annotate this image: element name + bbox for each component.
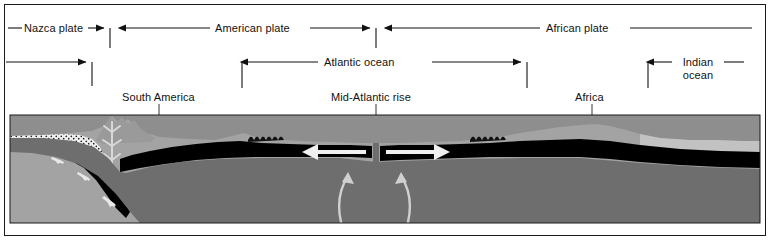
cross-section-diagram bbox=[0, 0, 774, 242]
label-indian-ocean-line2: ocean bbox=[683, 69, 713, 81]
label-africa: Africa bbox=[575, 91, 604, 103]
american-arrow-left bbox=[118, 25, 126, 32]
cross-section-panel bbox=[10, 115, 760, 223]
atlantic-arrow-left bbox=[240, 59, 248, 66]
african-arrow-left bbox=[384, 25, 392, 32]
label-african-plate: African plate bbox=[546, 22, 608, 34]
ridge-axis-gap bbox=[373, 143, 379, 163]
label-atlantic-ocean: Atlantic ocean bbox=[324, 56, 395, 68]
indian-arrow-left bbox=[646, 59, 654, 66]
label-indian-ocean-line1: Indian bbox=[683, 56, 714, 68]
plate-tectonics-figure: Nazca plate American plate African plate… bbox=[0, 0, 774, 242]
label-nazca-plate: Nazca plate bbox=[24, 22, 83, 34]
plate-extent-annotations bbox=[8, 25, 752, 48]
label-south-america: South America bbox=[122, 91, 195, 103]
label-american-plate: American plate bbox=[215, 22, 290, 34]
label-mid-atlantic-rise: Mid-Atlantic rise bbox=[331, 91, 411, 103]
